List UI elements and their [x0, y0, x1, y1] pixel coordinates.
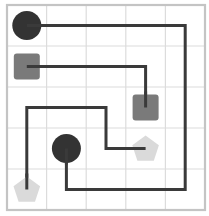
puzzle-board[interactable] — [0, 0, 209, 216]
